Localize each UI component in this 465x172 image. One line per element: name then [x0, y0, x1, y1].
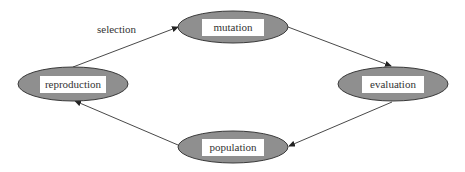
mutation-label: mutation — [213, 21, 253, 33]
edge-evaluation-to-population — [289, 102, 392, 146]
node-evaluation: evaluation — [338, 67, 448, 101]
population-label: population — [209, 141, 257, 153]
edge-label-selection: selection — [97, 23, 137, 35]
edge-mutation-to-evaluation — [288, 27, 391, 66]
evolutionary-cycle-diagram: selection mutation evaluation population… — [0, 0, 465, 172]
node-population: population — [178, 131, 288, 163]
node-mutation: mutation — [178, 11, 288, 43]
node-reproduction: reproduction — [18, 67, 128, 101]
edge-population-to-reproduction — [75, 101, 178, 145]
reproduction-label: reproduction — [45, 78, 102, 90]
evaluation-label: evaluation — [370, 78, 416, 90]
